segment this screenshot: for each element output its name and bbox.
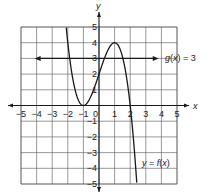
- x-tick-label: −5: [16, 109, 26, 119]
- y-tick-label: −1: [87, 116, 97, 126]
- line-g-arrow-left-icon: [35, 56, 41, 61]
- x-tick-label: −3: [47, 109, 57, 119]
- y-tick-label: −4: [87, 163, 97, 173]
- label-f: y = f(x): [141, 158, 170, 168]
- function-graph: xy −5−4−3−2−1012345−5−4−3−2−112345 g(x) …: [0, 0, 208, 196]
- x-axis-arrow-left-icon: [8, 104, 13, 108]
- curve-labels: g(x) = 3y = f(x): [141, 53, 196, 168]
- label-g: g(x) = 3: [165, 53, 196, 63]
- x-tick-label: 1: [112, 109, 117, 119]
- y-tick-label: −3: [87, 148, 97, 158]
- x-tick-label: −2: [63, 109, 73, 119]
- x-axis-arrow-right-icon: [184, 104, 189, 108]
- y-tick-label: 2: [92, 69, 97, 79]
- y-tick-label: −2: [87, 132, 97, 142]
- x-tick-label: 5: [174, 109, 179, 119]
- y-axis-arrow-down-icon: [97, 187, 101, 192]
- x-tick-label: 3: [143, 109, 148, 119]
- y-tick-label: 4: [92, 38, 97, 48]
- x-tick-label: 4: [159, 109, 164, 119]
- y-tick-label: −5: [87, 179, 97, 189]
- y-tick-label: 5: [92, 22, 97, 32]
- line-g-arrow-right-icon: [153, 56, 159, 61]
- y-axis-arrow-up-icon: [97, 12, 101, 17]
- y-axis-label: y: [95, 1, 101, 11]
- x-axis-label: x: [192, 101, 198, 111]
- x-tick-label: −4: [31, 109, 41, 119]
